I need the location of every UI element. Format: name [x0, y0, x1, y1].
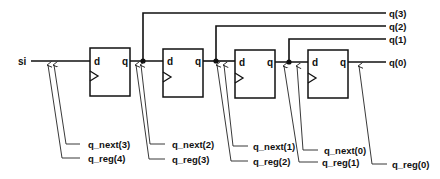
annotation-q-next-3: q_next(3) — [88, 139, 130, 150]
annotation-q-reg-4: q_reg(4) — [88, 153, 125, 164]
d-pin-label: d — [167, 56, 173, 67]
annotation-q-reg-0: q_reg(0) — [392, 159, 429, 170]
annotation-q-next-0: q_next(0) — [324, 145, 366, 156]
q-pin-label: q — [195, 56, 201, 67]
input-label-si: si — [18, 56, 27, 67]
flip-flop-0: d q — [308, 50, 348, 98]
d-pin-label: d — [239, 57, 245, 68]
flip-flop-2: d q — [163, 49, 203, 97]
output-label-q1: q(1) — [389, 34, 406, 45]
flip-flop-3: d q — [90, 48, 130, 96]
d-pin-label: d — [312, 57, 318, 68]
q-pin-label: q — [267, 57, 273, 68]
annotation-q-next-2: q_next(2) — [172, 139, 214, 150]
q-pin-label: q — [122, 56, 128, 67]
d-pin-label: d — [94, 56, 100, 67]
output-label-q2: q(2) — [389, 21, 406, 32]
annotation-q-reg-2: q_reg(2) — [253, 156, 290, 167]
output-label-q3: q(3) — [389, 8, 406, 19]
flip-flop-1: d q — [235, 50, 275, 98]
output-label-q0: q(0) — [389, 57, 406, 68]
shift-register-diagram: si d q d q d q d q — [0, 0, 440, 179]
annotation-q-reg-3: q_reg(3) — [172, 154, 209, 165]
annotation-q-reg-1: q_reg(1) — [322, 157, 359, 168]
q-pin-label: q — [340, 57, 346, 68]
annotation-q-next-1: q_next(1) — [253, 141, 295, 152]
